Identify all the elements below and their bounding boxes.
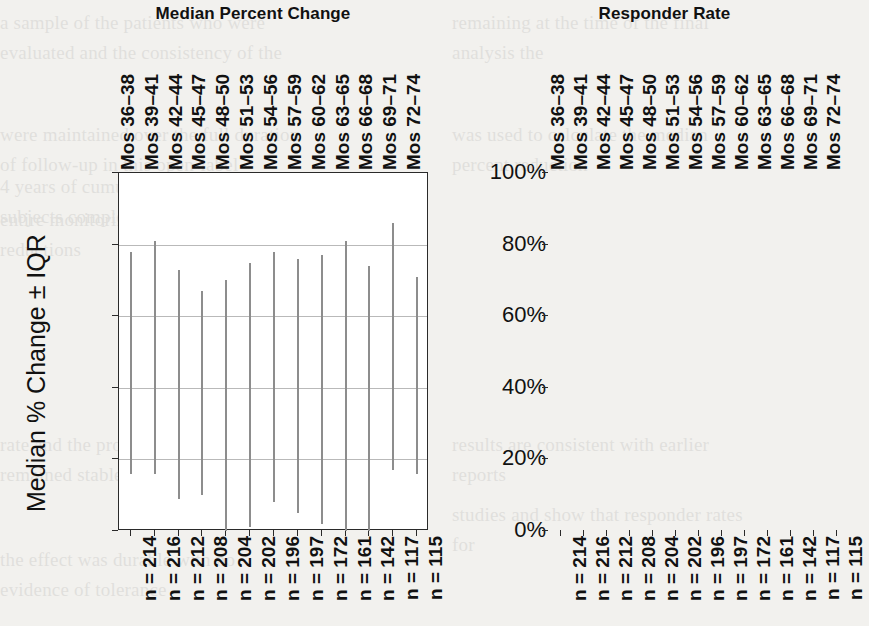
x-axis-n-label: n = 197 xyxy=(730,536,752,601)
x-axis-category-label: Mos 48–50 xyxy=(639,74,661,170)
y-axis-tick-label: 20% xyxy=(502,445,546,471)
x-axis-category-label: Mos 42–44 xyxy=(593,74,615,170)
y-axis-tick-mark xyxy=(112,530,118,531)
x-axis-n-label: n = 117 xyxy=(401,536,423,600)
x-axis-category-label: Mos 39–41 xyxy=(141,74,163,170)
iqr-whisker xyxy=(416,277,418,474)
x-axis-category-label: Mos 60–62 xyxy=(308,74,330,170)
iqr-whisker xyxy=(154,241,156,474)
x-axis-n-label: n = 212 xyxy=(187,536,209,601)
x-axis-tick-mark xyxy=(767,530,768,536)
panel-title-responder-rate: Responder Rate xyxy=(430,4,869,24)
x-axis-category-label: Mos 57–59 xyxy=(708,74,730,170)
x-axis-category-label: Mos 42–44 xyxy=(165,74,187,170)
x-axis-n-labels-right: n = 214n = 216n = 212n = 208n = 204n = 2… xyxy=(548,536,848,624)
x-axis-tick-mark xyxy=(790,530,791,536)
panel-title-median-percent-change: Median Percent Change xyxy=(0,4,440,24)
x-axis-tick-mark xyxy=(154,530,155,536)
plot-area-median-percent-change xyxy=(118,172,428,530)
x-axis-n-label: n = 115 xyxy=(845,536,867,600)
x-axis-category-label: Mos 66–68 xyxy=(777,74,799,170)
x-axis-n-label: n = 214 xyxy=(569,536,591,601)
y-axis-tick-mark xyxy=(112,315,118,316)
x-axis-category-label: Mos 54–56 xyxy=(685,74,707,170)
y-axis-tick-mark xyxy=(542,387,548,388)
y-axis-tick-mark xyxy=(112,244,118,245)
x-axis-n-label: n = 172 xyxy=(330,536,352,601)
x-axis-category-label: Mos 45–47 xyxy=(188,74,210,170)
x-axis-n-label: n = 202 xyxy=(258,536,280,601)
x-axis-tick-mark xyxy=(606,530,607,536)
y-axis-label-median-percent-change: Median % Change ± IQR xyxy=(22,234,51,512)
y-axis-tick-label: 40% xyxy=(502,374,546,400)
x-axis-category-label: Mos 45–47 xyxy=(616,74,638,170)
iqr-whisker xyxy=(392,223,394,470)
panel-median-percent-change: Median Percent Change Median % Change ± … xyxy=(0,0,440,626)
iqr-whisker xyxy=(345,241,347,531)
x-axis-category-label: Mos 66–68 xyxy=(355,74,377,170)
y-axis-tick-mark xyxy=(542,172,548,173)
x-axis-tick-mark xyxy=(392,530,393,536)
x-axis-category-label: Mos 60–62 xyxy=(731,74,753,170)
y-axis-tick-mark xyxy=(112,387,118,388)
x-axis-n-label: n = 202 xyxy=(684,536,706,601)
iqr-whisker xyxy=(321,255,323,524)
x-axis-category-labels-left: Mos 36–38Mos 39–41Mos 42–44Mos 45–47Mos … xyxy=(118,44,428,170)
iqr-whisker xyxy=(201,291,203,495)
x-axis-tick-mark xyxy=(273,530,274,536)
x-axis-category-label: Mos 51–53 xyxy=(662,74,684,170)
x-axis-n-label: n = 197 xyxy=(306,536,328,601)
x-axis-n-label: n = 117 xyxy=(822,536,844,600)
y-axis-tick-mark xyxy=(542,530,548,531)
x-axis-n-label: n = 208 xyxy=(210,536,232,601)
y-axis-tick-mark xyxy=(112,172,118,173)
x-axis-category-label: Mos 57–59 xyxy=(284,74,306,170)
x-axis-category-label: Mos 63–65 xyxy=(754,74,776,170)
y-axis-tick-mark xyxy=(542,458,548,459)
x-axis-tick-mark xyxy=(416,530,417,536)
x-axis-n-label: n = 196 xyxy=(282,536,304,601)
x-axis-tick-mark xyxy=(721,530,722,536)
x-axis-n-label: n = 212 xyxy=(615,536,637,601)
x-axis-tick-mark xyxy=(178,530,179,536)
x-axis-n-label: n = 214 xyxy=(139,536,161,601)
iqr-whisker xyxy=(225,280,227,531)
x-axis-n-label: n = 161 xyxy=(776,536,798,601)
iqr-whisker xyxy=(273,252,275,503)
panel-responder-rate: Responder Rate Responder Rate ± 95% CIs … xyxy=(430,0,869,626)
x-axis-category-label: Mos 72–74 xyxy=(823,74,845,170)
x-axis-category-labels-right: Mos 36–38Mos 39–41Mos 42–44Mos 45–47Mos … xyxy=(548,44,848,170)
x-axis-n-labels-left: n = 214n = 216n = 212n = 208n = 204n = 2… xyxy=(118,536,428,624)
x-axis-tick-mark xyxy=(675,530,676,536)
y-axis-tick-mark xyxy=(112,458,118,459)
x-axis-n-label: n = 204 xyxy=(661,536,683,601)
y-axis-tick-mark xyxy=(542,315,548,316)
x-axis-category-label: Mos 48–50 xyxy=(212,74,234,170)
x-axis-n-label: n = 204 xyxy=(234,536,256,601)
x-axis-n-label: n = 142 xyxy=(799,536,821,601)
x-axis-tick-mark xyxy=(698,530,699,536)
gridline xyxy=(119,245,427,246)
x-axis-n-label: n = 172 xyxy=(753,536,775,601)
x-axis-tick-mark xyxy=(249,530,250,536)
iqr-whisker xyxy=(178,270,180,499)
iqr-whisker xyxy=(130,252,132,474)
x-axis-n-label: n = 216 xyxy=(592,536,614,601)
x-axis-category-label: Mos 51–53 xyxy=(236,74,258,170)
x-axis-tick-mark xyxy=(744,530,745,536)
x-axis-n-label: n = 142 xyxy=(377,536,399,601)
x-axis-category-label: Mos 54–56 xyxy=(260,74,282,170)
x-axis-category-label: Mos 72–74 xyxy=(403,74,425,170)
x-axis-tick-mark xyxy=(836,530,837,536)
x-axis-category-label: Mos 69–71 xyxy=(800,74,822,170)
iqr-whisker xyxy=(368,266,370,531)
x-axis-tick-mark xyxy=(130,530,131,536)
x-axis-n-label: n = 216 xyxy=(163,536,185,601)
x-axis-tick-mark xyxy=(297,530,298,536)
x-axis-tick-mark xyxy=(201,530,202,536)
x-axis-n-label: n = 196 xyxy=(707,536,729,601)
x-axis-category-label: Mos 36–38 xyxy=(117,74,139,170)
y-axis-tick-label: 60% xyxy=(502,302,546,328)
x-axis-tick-mark xyxy=(560,530,561,536)
x-axis-n-label: n = 208 xyxy=(638,536,660,601)
